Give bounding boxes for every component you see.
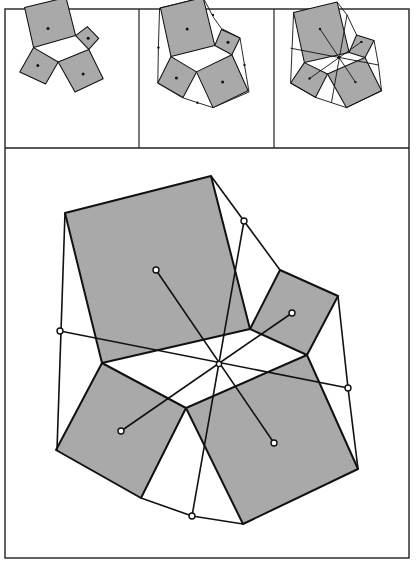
- geometry-figure: [0, 0, 416, 566]
- panel-2: [157, 0, 249, 108]
- panel-main: [56, 176, 358, 524]
- panel-1: [20, 0, 103, 92]
- panel-3: [291, 2, 382, 108]
